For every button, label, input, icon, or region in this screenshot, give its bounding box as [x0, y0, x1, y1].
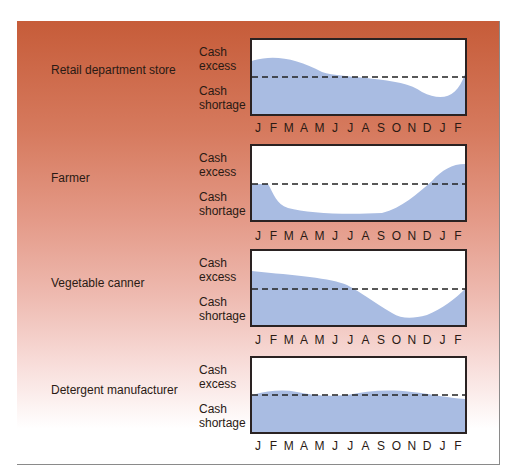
cash-shortage-label: Cashshortage — [199, 190, 246, 218]
cash-flow-chart — [250, 249, 467, 327]
month-axis: JFMAMJJASONDJF — [250, 439, 467, 453]
company-label: Detergent manufacturer — [51, 383, 178, 397]
month-axis: JFMAMJJASONDJF — [250, 121, 467, 135]
month-axis: JFMAMJJASONDJF — [250, 229, 467, 243]
cash-shortage-label: Cashshortage — [199, 402, 246, 430]
cash-excess-label: Cashexcess — [199, 45, 236, 73]
cash-excess-label: Cashexcess — [199, 363, 236, 391]
company-label: Retail department store — [51, 63, 176, 77]
figure-panel: Retail department store Cashexcess Cashs… — [17, 21, 500, 465]
cash-shortage-label: Cashshortage — [199, 84, 246, 112]
cash-flow-chart — [250, 356, 467, 434]
cash-excess-label: Cashexcess — [199, 256, 236, 284]
company-label: Farmer — [51, 171, 90, 185]
cash-shortage-label: Cashshortage — [199, 295, 246, 323]
month-axis: JFMAMJJASONDJF — [250, 333, 467, 347]
cash-flow-chart — [250, 144, 467, 222]
company-label: Vegetable canner — [51, 276, 144, 290]
cash-excess-label: Cashexcess — [199, 151, 236, 179]
cash-flow-chart — [250, 38, 467, 116]
